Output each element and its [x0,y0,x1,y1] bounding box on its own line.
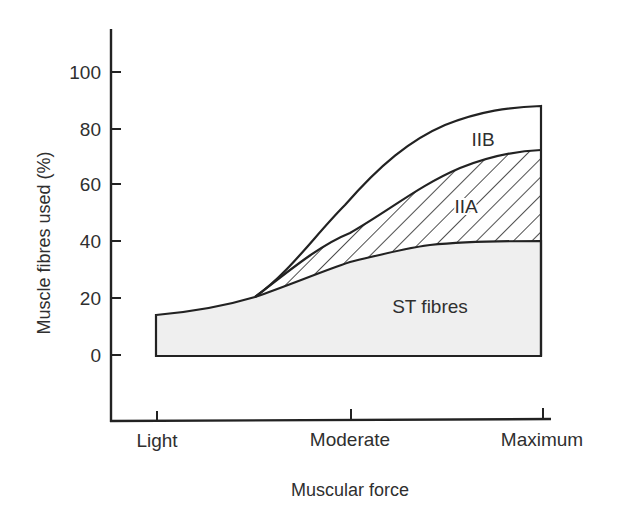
label-iia: IIA [454,196,478,217]
y-tick-0: 0 [90,345,101,366]
x-tick-maximum: Maximum [501,429,583,450]
y-axis-title: Muscle fibres used (%) [34,151,54,334]
x-axis-title: Muscular force [291,480,409,500]
label-iib: IIB [471,129,494,150]
y-tick-60: 60 [80,174,101,195]
x-axis [110,419,551,421]
y-tick-100: 100 [69,62,101,83]
chart: 100 80 60 40 20 0 Muscle fibres used (%)… [0,0,623,523]
x-tick-light: Light [136,430,178,451]
y-tick-40: 40 [80,231,101,252]
y-tick-80: 80 [80,119,101,140]
y-axis-ticks [111,72,121,355]
x-tick-moderate: Moderate [310,429,390,450]
y-tick-20: 20 [80,288,101,309]
label-st-fibres: ST fibres [392,296,468,317]
